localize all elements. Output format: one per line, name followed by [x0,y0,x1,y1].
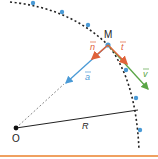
circular-motion-diagram: M O R n t v a [0,0,158,159]
label-r: R [82,121,89,131]
label-n: n [90,42,95,52]
dashed-radius-line [16,84,64,128]
t-vector [108,45,127,64]
center-point [14,126,19,131]
label-a: a [85,72,90,82]
label-m: M [104,29,112,40]
label-v: v [143,69,148,79]
bottom-rule [0,155,158,157]
trajectory-points [31,1,142,132]
label-t: t [121,42,124,52]
label-o: O [12,133,20,144]
radius-line [16,110,138,128]
